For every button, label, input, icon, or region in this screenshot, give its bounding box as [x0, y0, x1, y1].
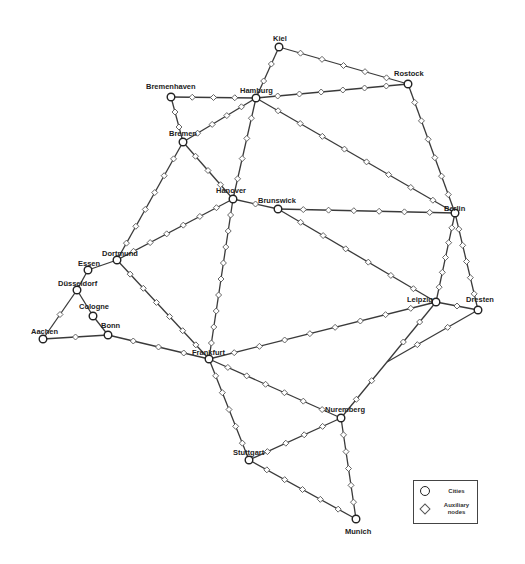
aux-node-diamond-icon [386, 172, 392, 178]
aux-node-diamond-icon [357, 318, 363, 324]
aux-node-diamond-icon [365, 259, 371, 265]
legend-cities-label: Cities [436, 488, 477, 495]
aux-node-diamond-icon [445, 192, 451, 198]
aux-node-diamond-icon [383, 312, 389, 318]
city-label-leipzig: Leipzig [407, 295, 433, 304]
aux-node-diamond-icon [445, 324, 451, 330]
aux-node-diamond-icon [297, 121, 303, 127]
aux-node-diamond-icon [412, 99, 418, 105]
city-label-cologne: Cologne [79, 302, 109, 311]
city-label-dresden: Dresten [466, 295, 494, 304]
aux-node-diamond-icon [296, 91, 302, 97]
city-labels: KielRostockBremenhavenHamburgBremenHanov… [31, 34, 494, 536]
aux-node-diamond-icon [228, 212, 234, 218]
aux-node-diamond-icon [189, 94, 195, 100]
city-node-munich [352, 515, 360, 523]
aux-node-diamond-icon [301, 432, 307, 438]
city-label-brunswick: Brunswick [258, 196, 297, 205]
city-node-brunswick [274, 205, 282, 213]
aux-node-diamond-icon [351, 499, 357, 505]
legend-row-aux: Auxiliary nodes [414, 502, 477, 516]
aux-node-diamond-icon [439, 173, 445, 179]
city-node-hamburg [252, 94, 260, 102]
aux-node-diamond-icon [408, 184, 414, 190]
aux-node-diamond-icon [164, 231, 170, 237]
aux-node-diamond-icon [300, 398, 306, 404]
aux-node-diamond-icon [300, 487, 306, 493]
city-circle-icon [420, 486, 430, 496]
aux-node-diamond-icon [219, 390, 225, 396]
city-node-bremen [179, 138, 187, 146]
aux-node-diamond-icon [208, 340, 214, 346]
aux-node-diamond-icon [343, 246, 349, 252]
aux-node-diamond-icon [220, 260, 226, 266]
city-node-aachen [39, 335, 47, 343]
city-node-stuttgart [245, 456, 253, 464]
aux-node-diamond-icon [213, 308, 219, 314]
aux-node-diamond-icon [410, 286, 416, 292]
aux-node-diamond-icon [341, 63, 347, 69]
city-label-kiel: Kiel [273, 34, 287, 43]
aux-node-diamond-icon [341, 146, 347, 152]
aux-node-diamond-icon [326, 207, 332, 213]
city-label-hanover: Hanover [216, 186, 246, 195]
aux-node-diamond-icon [364, 159, 370, 165]
aux-node-diamond-icon [362, 85, 368, 91]
city-node-rostock [404, 80, 412, 88]
aux-node-diamond-icon [161, 173, 167, 179]
aux-node-diamond-icon [73, 334, 79, 340]
aux-node-diamond-icon [318, 89, 324, 95]
aux-node-diamond-icon [307, 331, 313, 337]
city-label-bonn: Bonn [101, 321, 121, 330]
aux-node-diamond-icon [340, 87, 346, 93]
aux-node-diamond-icon [343, 449, 349, 455]
aux-node-diamond-icon [275, 93, 281, 99]
aux-node-diamond-icon [211, 324, 217, 330]
city-label-bremen: Bremen [169, 129, 197, 138]
aux-node-diamond-icon [235, 176, 241, 182]
city-node-cologne [89, 312, 97, 320]
aux-node-diamond-icon [446, 240, 452, 246]
aux-node-diamond-icon [275, 108, 281, 114]
legend-aux-label: Auxiliary nodes [436, 502, 477, 516]
aux-node-diamond-icon [213, 205, 219, 211]
city-node-leipzig [432, 298, 440, 306]
aux-node-diamond-icon [467, 275, 473, 281]
aux-node-diamond-icon [443, 255, 449, 261]
legend-row-cities: Cities [414, 486, 477, 496]
city-node-dresden [474, 306, 482, 314]
city-label-berlin: Berlin [444, 204, 466, 213]
aux-node-diamond-icon [264, 449, 270, 455]
aux-node-diamond-icon [298, 50, 304, 56]
aux-node-diamond-icon [282, 337, 288, 343]
aux-node-diamond-icon [225, 228, 231, 234]
aux-node-diamond-icon [239, 440, 245, 446]
legend: Cities Auxiliary nodes [413, 480, 478, 524]
aux-node-diamond-icon [283, 440, 289, 446]
aux-node-diamond-icon [388, 272, 394, 278]
aux-node-diamond-icon [300, 207, 306, 213]
aux-node-diamond-icon [244, 135, 250, 141]
aux-node-diamond-icon [171, 156, 177, 162]
aux-node-diamond-icon [268, 61, 274, 67]
aux-node-diamond-icon [351, 208, 357, 214]
aux-node-diamond-icon [181, 350, 187, 356]
aux-node-diamond-icon [211, 95, 217, 101]
aux-node-diamond-icon [232, 95, 238, 101]
aux-node-diamond-icon [238, 104, 244, 110]
aux-node-diamond-icon [142, 206, 148, 212]
city-label-nuremberg: Nuremberg [325, 405, 365, 414]
aux-node-diamond-icon [197, 213, 203, 219]
aux-node-diamond-icon [408, 305, 414, 311]
aux-node-diamond-icon [439, 269, 445, 275]
aux-node-diamond-icon [432, 155, 438, 161]
aux-node-diamond-icon [263, 381, 269, 387]
aux-node-diamond-icon [123, 240, 129, 246]
aux-node-diamond-icon [460, 242, 466, 248]
aux-node-diamond-icon [133, 223, 139, 229]
aux-node-diamond-icon [335, 506, 341, 512]
aux-diamond-icon [419, 503, 430, 514]
aux-node-diamond-icon [239, 156, 245, 162]
city-node-kiel [275, 43, 283, 51]
aux-node-diamond-icon [464, 259, 470, 265]
